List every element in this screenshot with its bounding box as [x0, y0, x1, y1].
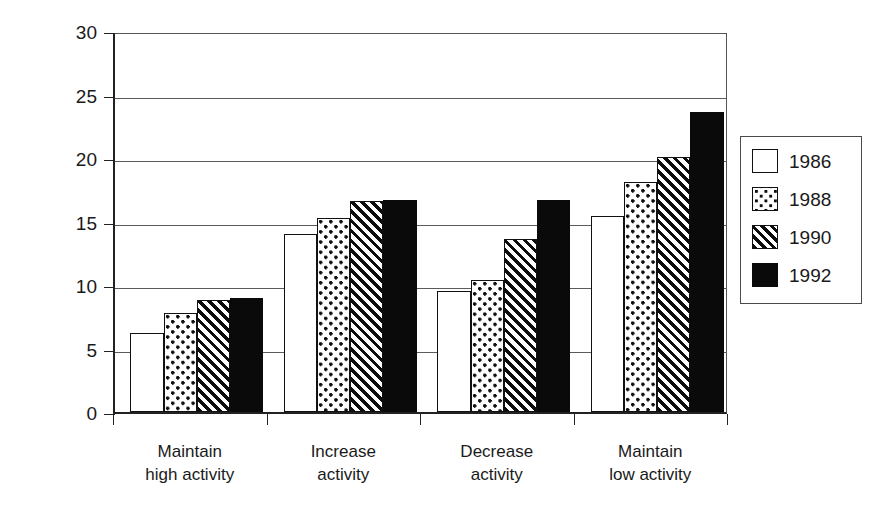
x-axis-label: Increaseactivity — [261, 440, 427, 486]
bar — [537, 200, 570, 412]
hatched-square-swatch — [752, 225, 778, 249]
x-axis-label-line-1: Increase — [261, 440, 427, 463]
gridline — [115, 98, 726, 99]
y-tick-label: 10 — [51, 277, 97, 296]
group-separator-tick — [113, 414, 114, 425]
x-axis-label: Decreaseactivity — [414, 440, 580, 486]
bar — [471, 280, 504, 412]
y-tick-mark — [104, 97, 115, 98]
y-tick-mark — [104, 287, 115, 288]
bar — [504, 239, 537, 412]
y-tick-label: 15 — [51, 214, 97, 233]
x-axis-label: Maintainhigh activity — [107, 440, 273, 486]
bar — [164, 313, 197, 412]
legend-item: 1986 — [752, 147, 831, 175]
x-axis-label-line-1: Maintain — [568, 440, 734, 463]
bar — [317, 218, 350, 412]
x-axis-label-line-1: Decrease — [414, 440, 580, 463]
bar — [591, 216, 624, 412]
bar-chart: Percent BMI ≥ 27.8 kg/m 051015202530 Mai… — [0, 0, 880, 516]
x-axis-label-line-2: activity — [414, 463, 580, 486]
bar — [690, 112, 723, 412]
y-axis-title: Percent BMI ≥ 27.8 kg/m — [18, 0, 52, 34]
bar — [437, 291, 470, 412]
bar — [230, 298, 263, 412]
x-axis-label-line-2: activity — [261, 463, 427, 486]
x-axis-label-line-1: Maintain — [107, 440, 273, 463]
group-separator-tick — [574, 414, 575, 425]
bar — [383, 200, 416, 412]
bar — [197, 300, 230, 412]
y-tick-label: 25 — [51, 87, 97, 106]
dotted-square-swatch — [752, 187, 778, 211]
gridline — [115, 161, 726, 162]
y-tick-label: 0 — [51, 404, 97, 423]
plot-area — [113, 33, 727, 414]
x-axis-label-line-2: low activity — [568, 463, 734, 486]
y-tick-mark — [104, 224, 115, 225]
bar — [350, 201, 383, 412]
bar — [130, 333, 163, 412]
y-tick-mark — [104, 351, 115, 352]
legend-item-label: 1988 — [789, 190, 831, 209]
legend-item-label: 1986 — [789, 152, 831, 171]
bar — [284, 234, 317, 412]
y-tick-mark — [104, 160, 115, 161]
bar — [657, 157, 690, 412]
y-tick-label: 5 — [51, 341, 97, 360]
group-separator-tick — [420, 414, 421, 425]
group-separator-tick — [267, 414, 268, 425]
x-axis-label-line-2: high activity — [107, 463, 273, 486]
legend-item-label: 1992 — [789, 266, 831, 285]
legend-item: 1990 — [752, 223, 831, 251]
legend-item-label: 1990 — [789, 228, 831, 247]
y-tick-mark — [104, 33, 115, 34]
x-axis-label: Maintainlow activity — [568, 440, 734, 486]
y-tick-label: 20 — [51, 150, 97, 169]
legend-item: 1988 — [752, 185, 831, 213]
empty-square-swatch — [752, 149, 778, 173]
bar — [624, 182, 657, 412]
filled-square-swatch — [752, 263, 778, 287]
legend-item: 1992 — [752, 261, 831, 289]
group-separator-tick — [727, 414, 728, 425]
legend: 1986198819901992 — [740, 136, 862, 304]
y-tick-label: 30 — [51, 23, 97, 42]
